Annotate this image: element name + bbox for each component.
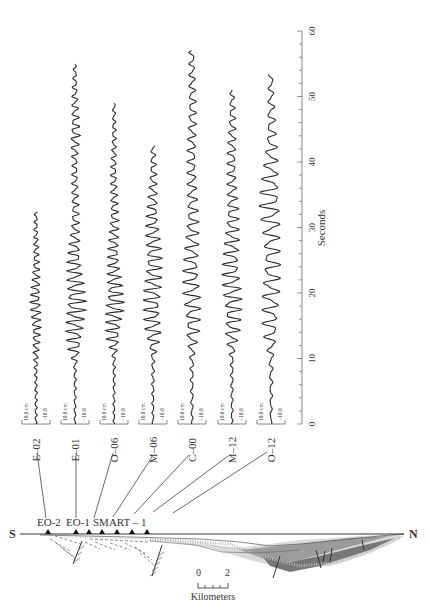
amp-top-label: 10.0 cm	[258, 403, 264, 421]
axis-tick-label: 10	[307, 354, 317, 364]
waveform	[106, 103, 124, 424]
axis-tick-label: 60	[307, 26, 317, 36]
station-name: M–12	[226, 437, 238, 463]
station-name: O–06	[108, 437, 120, 462]
station-name: C–00	[186, 438, 198, 462]
amp-top-label: 10.0 cm	[219, 403, 225, 421]
trace-0: 10.0 cm−10.0E–02	[22, 212, 50, 462]
trace-1: 10.0 cm−10.0E–01	[61, 64, 89, 462]
axis-tick-label: 0	[307, 421, 317, 426]
waveform	[143, 146, 161, 424]
scale-unit: Kilometers	[191, 591, 236, 602]
amp-top-label: 10.0 cm	[62, 403, 68, 421]
waveform	[183, 51, 201, 424]
scale-start: 0	[196, 567, 201, 578]
amp-bottom-label: −10.0	[238, 408, 244, 421]
station-name: E–01	[69, 438, 81, 461]
station-label-eo2: EO-2	[37, 516, 61, 528]
scale-end: 2	[225, 567, 230, 578]
south-label: S	[9, 527, 16, 541]
waveform	[222, 90, 242, 424]
axis-tick-label: 50	[307, 92, 317, 102]
amp-bottom-label: −10.0	[81, 408, 87, 421]
north-label: N	[409, 527, 418, 541]
amp-top-label: 10.0 cm	[179, 403, 185, 421]
station-name: E–02	[30, 438, 42, 461]
amp-bottom-label: −10.0	[159, 408, 165, 421]
amp-bottom-label: −10.0	[198, 408, 204, 421]
station-label-eo1: EO-1	[66, 516, 90, 528]
station-name: M–06	[147, 436, 159, 463]
station-name: O–12	[265, 438, 277, 462]
station-markers	[45, 529, 150, 534]
amp-top-label: 10.0 cm	[101, 403, 107, 421]
trace-5: 10.0 cm−10.0M–12	[218, 90, 246, 463]
scale-bar: 0 2 Kilometers	[191, 567, 236, 602]
seismogram-traces: 10.0 cm−10.0E–0210.0 cm−10.0E–0110.0 cm−…	[22, 51, 285, 463]
axis-tick-label: 40	[307, 157, 317, 167]
axis-title: Seconds	[315, 210, 327, 247]
trace-2: 10.0 cm−10.0O–06	[100, 103, 128, 462]
geologic-cross-section	[20, 529, 404, 578]
amp-top-label: 10.0 cm	[23, 403, 29, 421]
amp-bottom-label: −10.0	[277, 408, 283, 421]
station-label-smart1: SMART – 1	[93, 516, 147, 528]
amp-bottom-label: −10.0	[120, 408, 126, 421]
trace-3: 10.0 cm−10.0M–06	[139, 146, 167, 463]
amp-top-label: 10.0 cm	[140, 403, 146, 421]
trace-4: 10.0 cm−10.0C–00	[178, 51, 206, 462]
waveform	[30, 212, 41, 424]
amp-bottom-label: −10.0	[42, 408, 48, 421]
waveform	[259, 74, 280, 424]
trace-6: 10.0 cm−10.0O–12	[257, 74, 285, 462]
waveform	[66, 64, 86, 424]
time-axis: 0102030405060	[297, 26, 317, 426]
seismogram-figure: 0102030405060 Seconds 10.0 cm−10.0E–0210…	[0, 0, 429, 612]
axis-tick-label: 20	[307, 288, 317, 298]
